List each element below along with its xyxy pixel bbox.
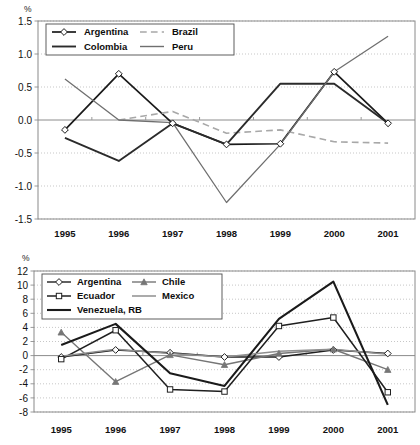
y-axis-unit-label: %	[24, 4, 32, 14]
data-point-marker	[167, 387, 172, 392]
y-axis-tick-label: -8	[19, 407, 28, 418]
legend-label-argentina: Argentina	[77, 276, 122, 287]
data-point-marker	[331, 315, 336, 320]
x-axis-tick-label: 1999	[270, 228, 291, 239]
chart-bottom-panel: %121086420-2-4-6-81995199619971998199920…	[0, 245, 420, 445]
data-point-marker	[56, 293, 61, 298]
y-axis-tick-label: 0.0	[18, 115, 32, 126]
y-axis-tick-label: 2	[22, 336, 28, 347]
x-axis-tick-label: 2001	[378, 228, 400, 239]
legend-label-argentina: Argentina	[84, 26, 129, 37]
y-axis-tick-label: 1.0	[18, 49, 32, 60]
data-point-marker	[385, 390, 390, 395]
y-axis-tick-label: -2	[19, 364, 28, 375]
y-axis-unit-label: %	[22, 253, 30, 263]
x-axis-tick-label: 2001	[377, 424, 399, 435]
x-axis-tick-label: 1995	[54, 228, 76, 239]
series-line-colombia	[65, 84, 388, 161]
chart-top-panel: %1.51.00.50.0-0.5-1.0-1.5199519961997199…	[0, 0, 420, 245]
series-line-brazil	[119, 111, 388, 143]
data-point-marker	[222, 389, 227, 394]
y-axis-tick-label: 1.5	[18, 16, 32, 27]
x-axis-tick-label: 1995	[51, 424, 73, 435]
y-axis-tick-label: 0	[22, 350, 28, 361]
data-point-marker	[112, 347, 119, 354]
y-axis-tick-label: -4	[19, 378, 28, 389]
x-axis-tick-label: 1996	[105, 424, 126, 435]
legend-label-brazil: Brazil	[172, 26, 198, 37]
legend-label-ecuador: Ecuador	[77, 290, 115, 301]
legend-label-chile: Chile	[162, 276, 185, 287]
data-point-marker	[58, 329, 64, 335]
x-axis-tick-label: 1999	[268, 424, 289, 435]
y-axis-tick-label: 8	[22, 294, 28, 305]
x-axis-tick-label: 1998	[214, 424, 235, 435]
y-axis-tick-label: -1.0	[15, 181, 33, 192]
chart-page: %1.51.00.50.0-0.5-1.0-1.5199519961997199…	[0, 0, 420, 445]
y-axis-tick-label: 4	[22, 322, 28, 333]
x-axis-tick-label: 2000	[323, 424, 344, 435]
chart-top-svg: %1.51.00.50.0-0.5-1.0-1.5199519961997199…	[0, 0, 420, 245]
y-axis-tick-label: 10	[17, 280, 29, 291]
x-axis-tick-label: 1997	[160, 424, 181, 435]
y-axis-tick-label: -1.5	[15, 214, 33, 225]
legend-label-peru: Peru	[172, 41, 193, 52]
x-axis-tick-label: 2000	[324, 228, 345, 239]
chart-bottom-svg: %121086420-2-4-6-81995199619971998199920…	[0, 245, 420, 445]
y-axis-tick-label: 12	[17, 266, 29, 277]
x-axis-tick-label: 1996	[108, 228, 129, 239]
legend-box	[46, 24, 234, 55]
data-point-marker	[59, 356, 64, 361]
series-line-peru	[65, 36, 388, 202]
data-point-marker	[113, 328, 118, 333]
y-axis-tick-label: -6	[19, 393, 28, 404]
x-axis-tick-label: 1998	[216, 228, 237, 239]
x-axis-tick-label: 1997	[162, 228, 183, 239]
data-point-marker	[221, 354, 228, 361]
y-axis-tick-label: 0.5	[18, 82, 32, 93]
y-axis-tick-label: 6	[22, 308, 28, 319]
data-point-marker	[276, 323, 281, 328]
legend-label-mexico: Mexico	[162, 290, 194, 301]
y-axis-tick-label: -0.5	[15, 148, 33, 159]
legend-label-venezuela-rb: Venezuela, RB	[77, 304, 142, 315]
legend-label-colombia: Colombia	[84, 41, 128, 52]
